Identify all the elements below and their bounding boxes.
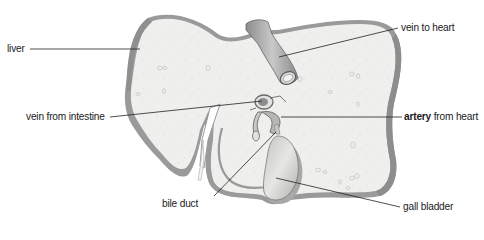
label-vein-to-heart: vein to heart	[401, 22, 454, 34]
label-artery-from-heart: artery from heart	[404, 111, 478, 123]
label-artery-emphasis: artery	[404, 110, 431, 122]
label-vein-from-intestine: vein from intestine	[26, 111, 105, 123]
label-liver: liver	[7, 43, 25, 55]
label-gall-bladder: gall bladder	[403, 201, 453, 213]
label-artery-rest: from heart	[431, 110, 478, 122]
label-bile-duct: bile duct	[162, 198, 198, 210]
